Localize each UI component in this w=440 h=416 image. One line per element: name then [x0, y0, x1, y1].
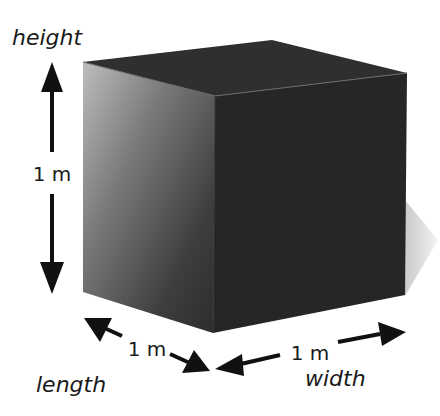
height-label: height: [12, 25, 83, 50]
width-label: width: [305, 366, 366, 391]
length-measurement: 1 m: [128, 337, 167, 361]
width-measurement: 1 m: [291, 341, 330, 365]
cube-front-face: [213, 73, 407, 333]
height-measurement: 1 m: [33, 162, 72, 186]
cube-left-face: [83, 62, 215, 333]
cube-shadow: [405, 200, 438, 296]
cube-diagram: 1 m height 1 m length 1 m width: [0, 0, 440, 416]
length-label: length: [36, 372, 106, 397]
